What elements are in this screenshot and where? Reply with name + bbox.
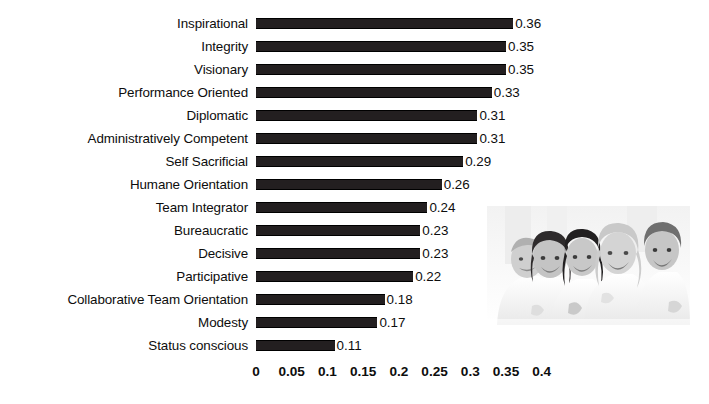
bar-track	[256, 41, 506, 52]
bar-row: Visionary0.35	[0, 58, 709, 81]
bar[interactable]	[256, 202, 427, 213]
bar-value-label: 0.35	[506, 58, 534, 81]
plot-area: Inspirational0.36Integrity0.35Visionary0…	[0, 0, 709, 404]
bar-track	[256, 179, 442, 190]
bar[interactable]	[256, 133, 477, 144]
bar-value-label: 0.31	[477, 127, 505, 150]
bar[interactable]	[256, 18, 513, 29]
bar-value-label: 0.29	[463, 150, 491, 173]
bar-value-label: 0.23	[420, 242, 448, 265]
bar-track	[256, 110, 477, 121]
category-label: Diplomatic	[0, 104, 248, 127]
bar-track	[256, 156, 463, 167]
category-label: Decisive	[0, 242, 248, 265]
x-tick-label: 0.15	[350, 361, 376, 383]
bar-track	[256, 133, 477, 144]
bar[interactable]	[256, 225, 420, 236]
category-label: Status conscious	[0, 334, 248, 357]
category-label: Team Integrator	[0, 196, 248, 219]
bar[interactable]	[256, 340, 335, 351]
bar-track	[256, 317, 377, 328]
bar-value-label: 0.17	[377, 311, 405, 334]
bar-value-label: 0.11	[335, 334, 362, 357]
bar-row: Self Sacrificial0.29	[0, 150, 709, 173]
bar-track	[256, 294, 385, 305]
category-label: Integrity	[0, 35, 248, 58]
x-tick-label: 0	[252, 361, 260, 383]
bar-value-label: 0.35	[506, 35, 534, 58]
bar[interactable]	[256, 294, 385, 305]
bar-value-label: 0.33	[492, 81, 520, 104]
bar[interactable]	[256, 41, 506, 52]
category-label: Modesty	[0, 311, 248, 334]
x-tick-label: 0.3	[461, 361, 480, 383]
bar-track	[256, 87, 492, 98]
bar-row: Administratively Competent0.31	[0, 127, 709, 150]
bar-track	[256, 18, 513, 29]
bar-value-label: 0.18	[385, 288, 413, 311]
category-label: Inspirational	[0, 12, 248, 35]
bar[interactable]	[256, 248, 420, 259]
category-label: Visionary	[0, 58, 248, 81]
bar-track	[256, 202, 427, 213]
category-label: Self Sacrificial	[0, 150, 248, 173]
x-tick-label: 0.05	[278, 361, 304, 383]
bar-track	[256, 340, 335, 351]
bar-row: Diplomatic0.31	[0, 104, 709, 127]
bar-value-label: 0.36	[513, 12, 541, 35]
bar-row: Status conscious0.11	[0, 334, 709, 357]
x-tick-label: 0.4	[532, 361, 551, 383]
x-tick-label: 0.25	[421, 361, 447, 383]
bar[interactable]	[256, 64, 506, 75]
bar-value-label: 0.26	[442, 173, 470, 196]
group-photo-image	[487, 206, 690, 325]
group-photo	[487, 206, 690, 325]
bar-value-label: 0.31	[477, 104, 505, 127]
category-label: Participative	[0, 265, 248, 288]
bar[interactable]	[256, 271, 413, 282]
bar[interactable]	[256, 110, 477, 121]
category-label: Bureaucratic	[0, 219, 248, 242]
category-label: Collaborative Team Orientation	[0, 288, 248, 311]
bar-value-label: 0.24	[427, 196, 455, 219]
x-axis: 00.050.10.150.20.250.30.350.4	[0, 361, 709, 385]
category-label: Performance Oriented	[0, 81, 248, 104]
bar-track	[256, 248, 420, 259]
bar-track	[256, 271, 413, 282]
x-tick-label: 0.1	[318, 361, 337, 383]
bar[interactable]	[256, 179, 442, 190]
category-label: Administratively Competent	[0, 127, 248, 150]
bar-row: Inspirational0.36	[0, 12, 709, 35]
bar-value-label: 0.22	[413, 265, 441, 288]
bar-row: Humane Orientation0.26	[0, 173, 709, 196]
x-tick-label: 0.35	[493, 361, 519, 383]
x-tick-label: 0.2	[389, 361, 408, 383]
bar-row: Performance Oriented0.33	[0, 81, 709, 104]
bar[interactable]	[256, 87, 492, 98]
bar-value-label: 0.23	[420, 219, 448, 242]
category-label: Humane Orientation	[0, 173, 248, 196]
bar-track	[256, 225, 420, 236]
bar[interactable]	[256, 317, 377, 328]
bar-track	[256, 64, 506, 75]
bar[interactable]	[256, 156, 463, 167]
bar-chart: Inspirational0.36Integrity0.35Visionary0…	[0, 0, 709, 404]
bar-row: Integrity0.35	[0, 35, 709, 58]
